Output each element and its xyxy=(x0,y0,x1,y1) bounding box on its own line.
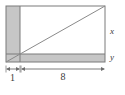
geometry-figure: x y 1 8 xyxy=(0,0,125,95)
shaded-bottom-strip xyxy=(6,54,105,62)
label-y: y xyxy=(110,53,114,62)
dimension-label-eight: 8 xyxy=(21,72,105,82)
dimension-label-one: 1 xyxy=(5,73,20,83)
label-x: x xyxy=(110,27,114,36)
